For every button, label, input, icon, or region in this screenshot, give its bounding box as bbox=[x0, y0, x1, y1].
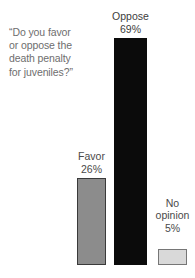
bar-label-no-opinion-name: No opinion bbox=[156, 197, 190, 221]
bar-group-no-opinion: No opinion 5% bbox=[158, 249, 187, 265]
bar-label-favor: Favor 26% bbox=[78, 150, 105, 175]
bar-group-oppose: Oppose 69% bbox=[114, 38, 147, 265]
bar-label-favor-value: 26% bbox=[78, 163, 105, 175]
bar-label-no-opinion: No opinion 5% bbox=[156, 185, 190, 246]
bar-label-oppose-value: 69% bbox=[112, 23, 149, 35]
bar-label-no-opinion-value: 5% bbox=[156, 222, 190, 234]
poll-question-text: “Do you favor or oppose the death penalt… bbox=[9, 26, 93, 79]
bar-label-oppose: Oppose 69% bbox=[112, 10, 149, 35]
bar-rect-favor bbox=[77, 178, 106, 265]
bar-group-favor: Favor 26% bbox=[77, 178, 106, 265]
bar-rect-no-opinion bbox=[158, 249, 187, 265]
poll-bar-chart: “Do you favor or oppose the death penalt… bbox=[0, 0, 195, 278]
bar-label-favor-name: Favor bbox=[78, 150, 105, 162]
bar-rect-oppose bbox=[114, 38, 147, 265]
bar-label-oppose-name: Oppose bbox=[112, 10, 149, 22]
